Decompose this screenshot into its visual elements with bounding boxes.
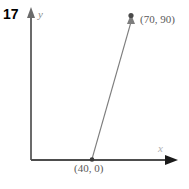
point-label-70-90: (70, 90) <box>140 14 175 25</box>
x-axis-label: x <box>158 143 163 154</box>
figure-container: 17 y x (70, 90) (40, 0) <box>0 0 189 189</box>
label-layer: 17 y x (70, 90) (40, 0) <box>0 0 189 189</box>
point-label-40-0: (40, 0) <box>74 163 103 174</box>
y-axis-label: y <box>38 9 43 20</box>
problem-number: 17 <box>3 7 19 21</box>
